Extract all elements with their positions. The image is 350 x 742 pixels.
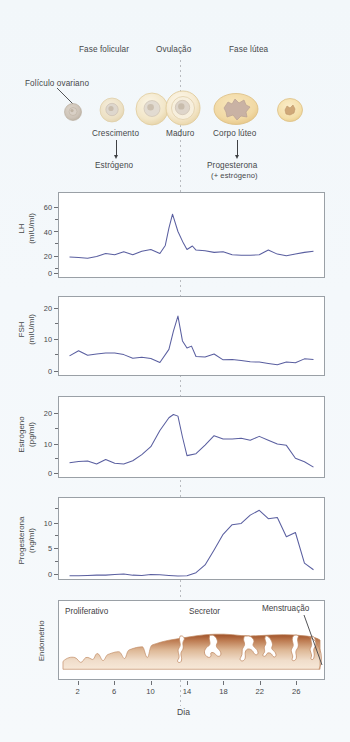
yaxis-title-endometrium: Endométrio xyxy=(37,601,47,681)
endometrium-phase-secretor: Secretor xyxy=(189,607,220,616)
arrowhead-estrogen xyxy=(114,155,118,159)
ytickmark-fsh-15 xyxy=(55,323,58,324)
xaxis-label-dia: Dia xyxy=(177,707,190,717)
xtick-label-day-10: 10 xyxy=(144,687,158,696)
ytick-est-0: 0 xyxy=(32,469,52,478)
endometrium-phase-proliferativo: Proliferativo xyxy=(65,607,108,616)
arrowhead-progesterone xyxy=(235,155,239,159)
chart-panel-estrogen xyxy=(58,396,325,478)
ytick-est-20: 20 xyxy=(32,409,52,418)
ytick-est-10: 10 xyxy=(32,440,52,449)
ytick-lh-0: 0 xyxy=(32,269,52,278)
ytick-fsh-0: 0 xyxy=(32,367,52,376)
chart-panel-progesterone xyxy=(58,497,325,580)
ytickmark-prog-0 xyxy=(54,574,59,575)
chart-estrogen-svg xyxy=(59,397,324,477)
ytickmark-prog-75 xyxy=(55,535,58,536)
stage-label-corpo-luteo: Corpo lúteo xyxy=(213,129,256,138)
phase-label-follicular: Fase folicular xyxy=(79,45,129,54)
ytickmark-est-15 xyxy=(55,428,58,429)
ytickmark-est-0 xyxy=(54,473,59,474)
ytickmark-prog-25 xyxy=(55,561,58,562)
chart-fsh-svg xyxy=(59,297,324,375)
follicle-growing-icon xyxy=(97,95,127,125)
ytick-lh-20: 20 xyxy=(32,252,52,261)
ytick-lh-40: 40 xyxy=(32,228,52,237)
xtickmark-day-22 xyxy=(260,681,261,685)
corpus-luteum-icon xyxy=(212,90,260,128)
ytickmark-fsh-10 xyxy=(54,339,59,340)
ytick-fsh-20: 20 xyxy=(32,304,52,313)
ytickmark-prog-5 xyxy=(54,548,59,549)
xtickmark-day-18 xyxy=(223,681,224,685)
corpus-albicans-icon xyxy=(276,97,304,123)
ytick-prog-10: 10 xyxy=(32,519,52,528)
ytickmark-prog-10 xyxy=(54,523,59,524)
stage-label-maduro: Maduro xyxy=(166,129,194,138)
xtick-label-day-18: 18 xyxy=(216,687,230,696)
ytickmark-est-5 xyxy=(55,458,58,459)
yaxis-title-prog-name: Progesterona xyxy=(17,501,27,581)
ytickmark-lh-30 xyxy=(55,243,58,244)
phase-label-ovulation: Ovulação xyxy=(156,45,191,54)
ytickmark-lh-0 xyxy=(54,273,59,274)
chart-progesterone-svg xyxy=(59,498,324,579)
yaxis-title-fsh-name: FSH xyxy=(17,300,27,360)
ytick-fsh-10: 10 xyxy=(32,335,52,344)
yaxis-title-prog-units: (ng/ml) xyxy=(26,501,36,581)
ytickmark-lh-10 xyxy=(55,268,58,269)
chart-panel-fsh xyxy=(58,296,325,376)
xtick-label-day-6: 6 xyxy=(107,687,121,696)
xtickmark-day-10 xyxy=(151,681,152,685)
endometrium-phase-menstruacao: Menstruação xyxy=(262,604,309,613)
xtick-label-day-2: 2 xyxy=(71,687,85,696)
ytick-prog-0: 0 xyxy=(32,570,52,579)
ytickmark-est-10 xyxy=(54,444,59,445)
yaxis-title-progesterone: Progesterona (ng/ml) xyxy=(17,501,36,581)
ytick-lh-60: 60 xyxy=(32,203,52,212)
xtick-label-day-26: 26 xyxy=(289,687,303,696)
ytickmark-est-20 xyxy=(54,413,59,414)
phase-label-luteal: Fase lútea xyxy=(229,45,268,54)
ytick-prog-5: 5 xyxy=(32,544,52,553)
xtickmark-day-2 xyxy=(78,681,79,685)
chart-lh-svg xyxy=(59,193,324,277)
hormone-label-progesterone: Progesterona xyxy=(207,161,257,170)
chart-panel-lh xyxy=(58,192,325,278)
ytickmark-fsh-0 xyxy=(54,371,59,372)
ytickmark-fsh-5 xyxy=(55,354,58,355)
xtickmark-day-6 xyxy=(114,681,115,685)
hormone-label-plus-estrogen: (+ estrógeno) xyxy=(211,171,258,180)
yaxis-title-estrogen-name: Estrógeno xyxy=(17,400,27,470)
ytickmark-lh-50 xyxy=(55,219,58,220)
xtick-label-day-14: 14 xyxy=(180,687,194,696)
hormone-label-estrogen: Estrógeno xyxy=(95,161,133,170)
xtickmark-day-14 xyxy=(187,681,188,685)
xtick-label-day-22: 22 xyxy=(253,687,267,696)
menstruation-leader-line xyxy=(300,613,326,671)
follicle-primordial-icon xyxy=(62,101,84,123)
ytickmark-lh-60 xyxy=(54,207,59,208)
follicle-mature-icon xyxy=(163,88,203,128)
ytickmark-lh-40 xyxy=(54,231,59,232)
ytickmark-prog-125 xyxy=(55,508,58,509)
ytickmark-lh-20 xyxy=(54,256,59,257)
figure-root: Fase folicular Ovulação Fase lútea Folíc… xyxy=(0,0,350,742)
stage-label-crescimento: Crescimento xyxy=(92,129,139,138)
xtickmark-day-26 xyxy=(296,681,297,685)
ytickmark-fsh-20 xyxy=(54,308,59,309)
yaxis-title-lh-name: LH xyxy=(17,199,27,259)
